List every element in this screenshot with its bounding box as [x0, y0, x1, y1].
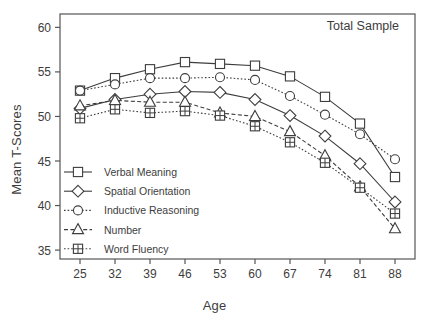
data-point-marker — [390, 172, 399, 181]
chart-legend: Verbal MeaningSpatial OrientationInducti… — [64, 166, 199, 255]
data-point-marker — [180, 58, 189, 67]
data-point-marker — [320, 110, 329, 119]
data-point-marker — [110, 80, 119, 89]
x-axis-title: Age — [0, 298, 429, 313]
data-point-marker — [355, 130, 364, 139]
data-point-marker — [179, 96, 190, 106]
x-tick-label: 67 — [283, 267, 297, 281]
legend-label: Word Fluency — [104, 243, 169, 255]
y-tick-label: 40 — [38, 199, 52, 213]
data-point-marker — [319, 130, 331, 142]
x-tick-label: 39 — [143, 267, 157, 281]
data-point-marker — [284, 110, 296, 122]
x-tick-label: 46 — [178, 267, 192, 281]
data-point-marker — [75, 86, 84, 95]
x-tick-label: 81 — [353, 267, 367, 281]
line-chart-plot: 354045505560 25323946536067748188 Verbal… — [0, 0, 429, 324]
data-point-marker — [145, 74, 154, 83]
data-point-marker — [355, 119, 364, 128]
chart-figure: Mean T-Scores Age 354045505560 253239465… — [0, 0, 429, 324]
data-point-marker — [249, 110, 260, 120]
data-point-marker — [180, 107, 189, 116]
data-point-marker — [390, 209, 399, 218]
legend-marker — [73, 244, 82, 253]
y-tick-label: 55 — [38, 65, 52, 79]
legend-marker — [72, 224, 83, 234]
data-point-marker — [214, 87, 226, 99]
series-verbal-meaning — [75, 58, 399, 182]
data-point-marker — [110, 105, 119, 114]
data-point-marker — [215, 59, 224, 68]
data-point-marker — [145, 108, 154, 117]
legend-label: Spatial Orientation — [104, 185, 191, 197]
x-tick-label: 74 — [318, 267, 332, 281]
y-tick-label: 45 — [38, 155, 52, 169]
y-axis-title: Mean T-Scores — [9, 90, 24, 210]
data-point-marker — [355, 183, 364, 192]
data-point-marker — [390, 155, 399, 164]
legend-label: Verbal Meaning — [104, 166, 177, 178]
data-point-marker — [145, 65, 154, 74]
x-tick-label: 60 — [248, 267, 262, 281]
series-inductive-reasoning — [75, 73, 399, 164]
data-point-marker — [285, 91, 294, 100]
data-point-marker — [215, 111, 224, 120]
legend-marker — [73, 167, 82, 176]
data-point-marker — [250, 122, 259, 131]
legend-item-inductive-reasoning: Inductive Reasoning — [64, 204, 199, 216]
y-tick-label: 50 — [38, 110, 52, 124]
legend-label: Inductive Reasoning — [104, 204, 199, 216]
legend-item-number: Number — [64, 224, 142, 236]
legend-marker — [73, 206, 82, 215]
data-point-marker — [250, 75, 259, 84]
panel-title-label: Total Sample — [327, 19, 399, 33]
x-axis-ticks: 25323946536067748188 — [73, 259, 402, 281]
legend-item-word-fluency: Word Fluency — [64, 243, 169, 255]
x-tick-label: 25 — [73, 267, 87, 281]
legend-item-verbal-meaning: Verbal Meaning — [64, 166, 177, 178]
data-point-marker — [285, 72, 294, 81]
x-tick-label: 32 — [108, 267, 122, 281]
series-word-fluency — [75, 105, 399, 218]
x-tick-label: 88 — [388, 267, 402, 281]
data-point-marker — [249, 94, 261, 106]
legend-label: Number — [104, 224, 142, 236]
y-axis-ticks: 354045505560 — [38, 21, 60, 258]
data-point-marker — [144, 96, 155, 106]
data-point-marker — [75, 114, 84, 123]
data-point-marker — [320, 158, 329, 167]
legend-marker — [72, 185, 84, 197]
data-point-marker — [284, 126, 295, 136]
data-point-marker — [285, 138, 294, 147]
x-tick-label: 53 — [213, 267, 227, 281]
legend-item-spatial-orientation: Spatial Orientation — [64, 185, 191, 197]
y-tick-label: 35 — [38, 244, 52, 258]
data-point-marker — [180, 74, 189, 83]
y-tick-label: 60 — [38, 21, 52, 35]
data-point-marker — [215, 73, 224, 82]
data-point-marker — [320, 92, 329, 101]
data-point-marker — [250, 61, 259, 70]
